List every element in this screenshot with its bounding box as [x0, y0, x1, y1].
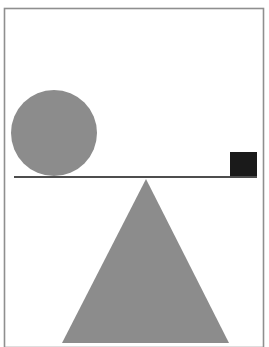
figure-canvas: A gray circle and a small black square r…	[0, 0, 269, 347]
circle-shape	[11, 90, 97, 176]
square-shape	[230, 152, 257, 176]
balance-scale-illustration	[0, 0, 269, 347]
